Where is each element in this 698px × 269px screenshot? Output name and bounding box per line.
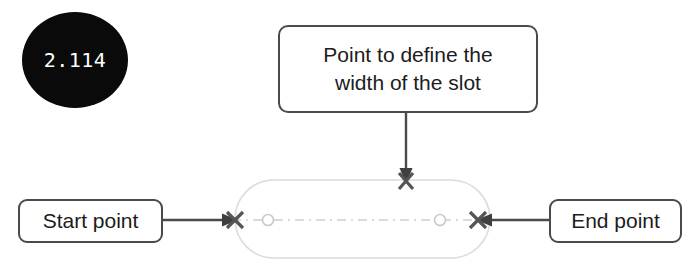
geometry-overlay [0,0,698,269]
figure-canvas: 2.114 Point to define the width of the s… [0,0,698,269]
left-arc-center-circle-icon [263,215,274,226]
right-arc-center-circle-icon [435,215,446,226]
